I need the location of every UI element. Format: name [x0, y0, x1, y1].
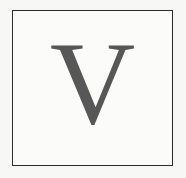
letter-glyph: V: [13, 25, 172, 143]
letter-tile-frame: V: [12, 10, 173, 166]
